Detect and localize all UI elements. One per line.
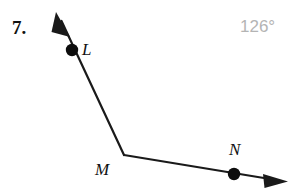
- problem-number: 7.: [12, 18, 26, 37]
- ray-mn-line: [124, 155, 273, 180]
- point-label-m: M: [95, 161, 109, 178]
- angle-measure-label: 126°: [240, 18, 275, 35]
- ray-ml-line: [62, 21, 125, 155]
- point-dot-l: [66, 44, 78, 56]
- point-dot-n: [228, 168, 240, 180]
- ray-mn-arrowhead: [263, 174, 288, 188]
- point-label-l: L: [82, 41, 91, 58]
- point-label-n: N: [229, 141, 240, 158]
- geometry-figure-canvas: 7. 126° L M N: [0, 0, 295, 193]
- ray-ml-arrowhead: [52, 12, 71, 37]
